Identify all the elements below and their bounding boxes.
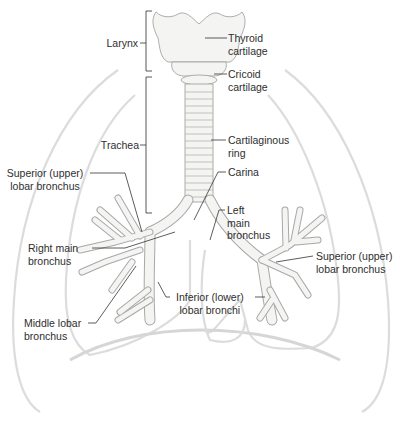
label-carina: Carina xyxy=(228,166,259,179)
respiratory-anatomy-diagram: Larynx Thyroid cartilage Cricoid cartila… xyxy=(0,0,402,422)
label-cartilaginous-ring: Cartilaginous ring xyxy=(228,134,289,159)
trachea-illustration xyxy=(185,84,213,202)
label-brackets xyxy=(146,11,152,213)
trachea-bracket xyxy=(146,77,152,213)
label-thyroid-cartilage: Thyroid cartilage xyxy=(228,32,268,57)
label-trachea: Trachea xyxy=(90,139,139,152)
label-left-main-bronchus: Left main bronchus xyxy=(227,204,270,242)
anatomy-illustration xyxy=(0,0,402,422)
label-right-main-bronchus: Right main bronchus xyxy=(28,242,78,267)
label-superior-lobar-bronchus-right: Superior (upper) lobar bronchus xyxy=(2,167,88,192)
label-superior-lobar-bronchus-left: Superior (upper) lobar bronchus xyxy=(316,250,392,275)
label-inferior-lobar-bronchi: Inferior (lower) lobar bronchi xyxy=(176,291,244,316)
label-larynx: Larynx xyxy=(96,37,138,50)
larynx-bracket xyxy=(146,11,152,71)
label-cricoid-cartilage: Cricoid cartilage xyxy=(228,68,268,93)
label-middle-lobar-bronchus: Middle lobar bronchus xyxy=(24,317,81,342)
